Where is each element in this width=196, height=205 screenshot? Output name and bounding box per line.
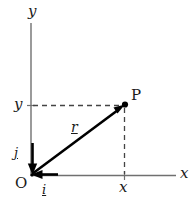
origin-label: O	[15, 176, 27, 191]
vector-diagram-figure: y x y x O P r i j	[0, 0, 196, 205]
origin-marker	[30, 173, 33, 176]
x-value-tick-label: x	[119, 180, 127, 195]
diagram-canvas	[0, 0, 196, 205]
y-value-tick-label: y	[14, 97, 22, 112]
x-axis-label: x	[180, 166, 188, 181]
unit-vector-i-label: i	[42, 183, 46, 196]
y-axis-label: y	[28, 4, 36, 19]
position-vector-label: r	[71, 120, 78, 134]
point-p-label: P	[131, 88, 141, 103]
unit-vector-j-label: j	[14, 146, 18, 159]
point-p-marker	[122, 101, 128, 107]
